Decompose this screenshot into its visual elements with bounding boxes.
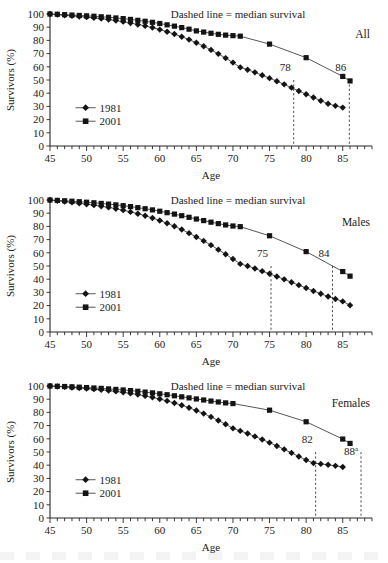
data-point-marker xyxy=(113,387,118,392)
y-tick-label: 60 xyxy=(33,247,45,259)
data-point-marker xyxy=(91,14,96,19)
data-point-marker xyxy=(157,21,162,26)
x-axis-title: Age xyxy=(202,169,220,181)
data-point-marker xyxy=(55,384,60,389)
data-point-marker xyxy=(91,385,96,390)
data-point-marker xyxy=(157,396,163,402)
data-point-marker xyxy=(186,405,192,411)
data-point-marker xyxy=(62,384,67,389)
data-point-marker xyxy=(62,198,67,203)
data-point-marker xyxy=(304,249,309,254)
data-point-marker xyxy=(266,271,272,277)
chart-panel-females: 0102030405060708090100455055606570758085… xyxy=(0,372,388,559)
data-point-marker xyxy=(193,234,199,240)
data-point-marker xyxy=(274,443,280,449)
y-tick-label: 10 xyxy=(33,313,45,325)
panel-label: All xyxy=(355,28,370,40)
data-point-marker xyxy=(230,256,236,262)
data-point-marker xyxy=(149,24,155,30)
data-point-marker xyxy=(194,216,199,221)
x-tick-label: 50 xyxy=(81,524,93,536)
data-point-marker xyxy=(340,436,345,441)
chart-svg-all: 0102030405060708090100455055606570758085… xyxy=(0,0,388,187)
data-point-marker xyxy=(274,78,280,84)
data-point-marker xyxy=(347,274,352,279)
y-tick-label: 60 xyxy=(33,433,45,445)
y-axis-title: Survivors (%) xyxy=(4,235,17,297)
legend-marker-diamond xyxy=(82,104,89,111)
data-point-marker xyxy=(230,425,236,431)
median-value-label: 84 xyxy=(318,247,330,259)
data-point-marker xyxy=(238,224,243,229)
data-point-marker xyxy=(172,393,177,398)
x-tick-label: 75 xyxy=(264,524,276,536)
data-point-marker xyxy=(259,268,265,274)
y-tick-label: 50 xyxy=(33,260,45,272)
data-point-marker xyxy=(55,12,60,17)
chart-panel-males: 0102030405060708090100455055606570758085… xyxy=(0,186,388,373)
data-point-marker xyxy=(200,410,206,416)
y-tick-label: 0 xyxy=(39,326,45,338)
data-point-marker xyxy=(201,218,206,223)
data-point-marker xyxy=(62,12,67,17)
data-point-marker xyxy=(121,16,126,21)
data-point-marker xyxy=(296,282,302,288)
y-tick-label: 20 xyxy=(33,299,45,311)
x-tick-label: 85 xyxy=(337,152,349,164)
data-point-marker xyxy=(143,19,148,24)
y-tick-label: 70 xyxy=(33,419,45,431)
data-point-marker xyxy=(142,213,148,219)
x-tick-label: 60 xyxy=(154,152,166,164)
data-point-marker xyxy=(121,387,126,392)
data-point-marker xyxy=(179,402,185,408)
y-axis-ticks: 0102030405060708090100 xyxy=(28,380,51,524)
data-point-marker xyxy=(69,384,74,389)
legend-label: 1981 xyxy=(100,102,122,114)
y-tick-label: 40 xyxy=(33,273,45,285)
y-tick-label: 100 xyxy=(28,380,45,392)
median-value-label: 86 xyxy=(335,61,347,73)
x-tick-label: 45 xyxy=(45,152,57,164)
y-axis-ticks: 0102030405060708090100 xyxy=(28,194,51,338)
data-point-marker xyxy=(91,200,96,205)
x-tick-label: 60 xyxy=(154,524,166,536)
data-point-marker xyxy=(186,395,191,400)
data-point-marker xyxy=(304,55,309,60)
median-survival-lines xyxy=(271,266,332,332)
data-point-marker xyxy=(310,288,316,294)
data-point-marker xyxy=(215,51,221,57)
y-tick-label: 70 xyxy=(33,233,45,245)
data-point-marker xyxy=(113,15,118,20)
data-point-marker xyxy=(179,34,185,40)
x-tick-label: 85 xyxy=(337,524,349,536)
x-tick-label: 80 xyxy=(301,152,313,164)
data-point-marker xyxy=(303,285,309,291)
series-2001 xyxy=(47,11,352,83)
chart-panel-all: 0102030405060708090100455055606570758085… xyxy=(0,0,388,187)
x-tick-label: 55 xyxy=(118,152,130,164)
data-point-marker xyxy=(252,265,258,271)
data-point-marker xyxy=(252,433,258,439)
data-point-marker xyxy=(223,222,228,227)
median-survival-lines xyxy=(294,80,350,146)
scan-artifact xyxy=(0,552,388,560)
data-point-marker xyxy=(244,263,250,269)
data-point-marker xyxy=(208,414,214,420)
data-point-marker xyxy=(171,400,177,406)
data-point-marker xyxy=(77,199,82,204)
data-point-marker xyxy=(186,215,191,220)
data-point-marker xyxy=(150,207,155,212)
y-tick-label: 20 xyxy=(33,113,45,125)
y-tick-label: 0 xyxy=(39,140,45,152)
data-point-marker xyxy=(164,210,169,215)
data-point-marker xyxy=(318,461,324,467)
x-tick-label: 80 xyxy=(301,338,313,350)
data-point-marker xyxy=(193,40,199,46)
median-value-label: 75 xyxy=(257,247,269,259)
y-axis-ticks: 0102030405060708090100 xyxy=(28,8,51,152)
y-tick-label: 50 xyxy=(33,74,45,86)
data-point-marker xyxy=(267,42,272,47)
legend-label: 2001 xyxy=(100,115,122,127)
legend: 19812001 xyxy=(76,102,122,128)
data-point-marker xyxy=(200,238,206,244)
